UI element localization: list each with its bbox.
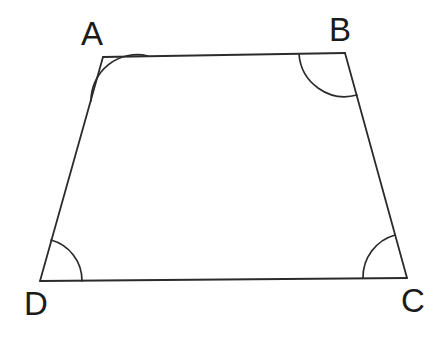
edge-DA (40, 57, 103, 281)
vertex-label-c: C (401, 284, 425, 317)
edge-CD (40, 278, 407, 281)
angle-arc-A (91, 55, 148, 101)
vertex-label-d: D (24, 287, 48, 320)
geometry-figure-canvas: A B C D (0, 0, 446, 352)
quadrilateral-edges (40, 53, 407, 281)
angle-arc-D (51, 240, 82, 281)
edge-BC (345, 53, 407, 278)
angle-arc-C (363, 235, 395, 278)
angle-arc-marks (51, 54, 395, 281)
vertex-label-b: B (329, 13, 351, 46)
trapezoid-diagram (0, 0, 446, 352)
angle-arc-B (299, 54, 357, 97)
vertex-label-a: A (81, 17, 103, 50)
